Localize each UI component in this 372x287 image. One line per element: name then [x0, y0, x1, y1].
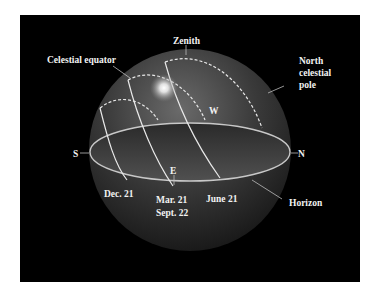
- north-celestial-pole-label-1: North: [299, 56, 324, 66]
- dec21-label: Dec. 21: [104, 189, 134, 199]
- horizon-plane: [90, 123, 290, 181]
- west-label: W: [209, 106, 219, 116]
- north-label: N: [298, 149, 305, 159]
- celestial-equator-label: Celestial equator: [47, 55, 117, 65]
- zenith-label: Zenith: [173, 36, 201, 46]
- celestial-sphere-diagram: Zenith Celestial equator North celestial…: [0, 0, 372, 287]
- south-label: S: [73, 149, 78, 159]
- east-label: E: [170, 166, 176, 176]
- sun: [150, 74, 178, 102]
- north-celestial-pole-label-2: celestial: [299, 68, 332, 78]
- mar21-label: Mar. 21: [156, 195, 188, 205]
- north-celestial-pole-label-3: pole: [299, 80, 316, 90]
- horizon-label: Horizon: [289, 198, 323, 208]
- sept22-label: Sept. 22: [156, 208, 188, 218]
- june21-label: June 21: [206, 194, 238, 204]
